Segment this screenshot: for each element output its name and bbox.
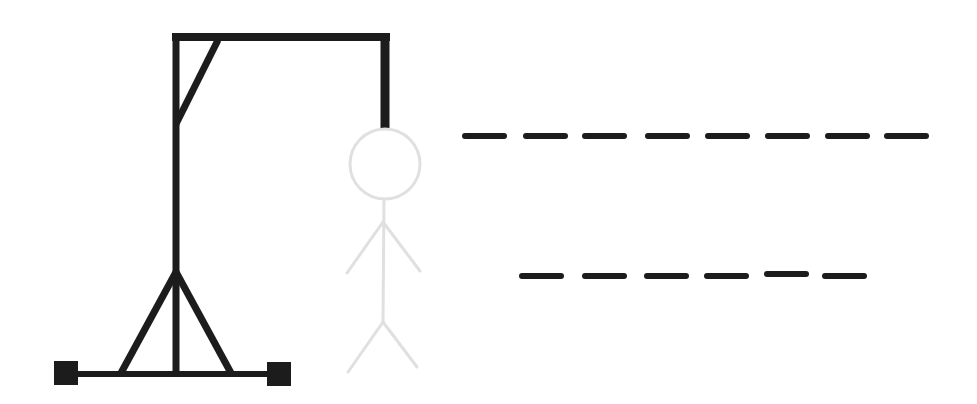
letter-slot [582,273,627,279]
letter-slot [705,133,750,139]
figure-right-arm [383,222,420,271]
letter-slot [764,271,809,277]
letter-slot [519,273,564,279]
gallows-support-left [121,272,176,373]
hangman-scene [0,0,977,404]
figure-right-leg [383,322,417,367]
figure-left-arm [347,222,383,273]
figure-head [350,129,420,199]
gallows [54,33,390,386]
stick-figure [347,129,420,372]
gallows-brace [176,40,218,124]
gallows-drawing [0,0,977,404]
letter-slot [825,133,870,139]
word-row-2 [519,273,867,279]
letter-slot [645,133,690,139]
letter-slot [704,273,749,279]
letter-slot [462,133,507,139]
gallows-support-right [176,272,231,373]
figure-left-leg [348,322,383,372]
gallows-foot-right [267,362,291,386]
letter-slot [884,133,929,139]
word-row-1 [462,133,929,139]
letter-slot [644,273,689,279]
gallows-foot-left [54,361,78,385]
letter-slot [765,133,810,139]
letter-slot [582,133,627,139]
letter-slot [822,273,867,279]
figure-body [383,199,384,322]
letter-slot [523,133,568,139]
